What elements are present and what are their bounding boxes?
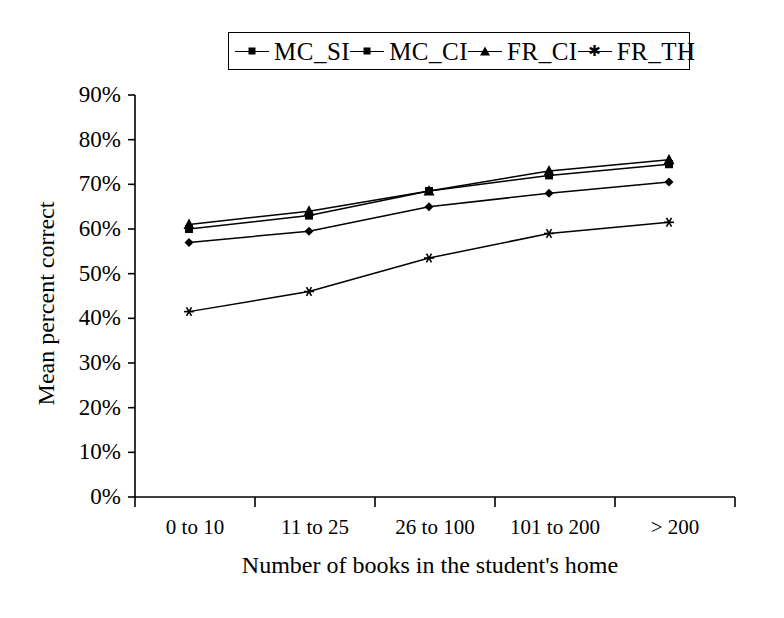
x-tick-label: > 200 <box>651 517 700 538</box>
series-mc-ci <box>185 160 673 233</box>
y-tick-label: 20% <box>51 396 121 419</box>
diamond-marker-icon <box>425 202 434 211</box>
y-tick-label: 60% <box>51 217 121 240</box>
star-marker-icon <box>184 307 194 316</box>
star-marker-icon <box>544 229 554 238</box>
y-tick-label: 90% <box>51 83 121 106</box>
x-tick-label: 101 to 200 <box>510 517 600 538</box>
y-tick-label: 70% <box>51 172 121 195</box>
y-axis-title: Mean percent correct <box>33 174 60 434</box>
star-marker-icon <box>664 218 674 227</box>
y-tick-label: 80% <box>51 128 121 151</box>
star-marker-icon <box>424 254 434 263</box>
x-tick-label: 11 to 25 <box>281 517 349 538</box>
x-tick-label: 0 to 10 <box>166 517 224 538</box>
triangle-marker-icon <box>664 154 675 165</box>
series-fr-ci <box>184 154 675 229</box>
chart-figure: MC_SI MC_CI FR_CI ✱ FR_TH Mean percent c… <box>0 0 784 618</box>
diamond-marker-icon <box>665 178 674 187</box>
x-axis-title: Number of books in the student's home <box>130 552 730 579</box>
series-fr-th <box>184 218 674 316</box>
diamond-marker-icon <box>305 227 314 236</box>
y-tick-label: 0% <box>51 485 121 508</box>
series-line <box>189 164 669 229</box>
star-marker-icon <box>304 287 314 296</box>
diamond-marker-icon <box>185 238 194 247</box>
y-tick-label: 40% <box>51 306 121 329</box>
y-tick-label: 30% <box>51 351 121 374</box>
y-tick-label: 50% <box>51 262 121 285</box>
x-tick-label: 26 to 100 <box>395 517 474 538</box>
y-tick-label: 10% <box>51 440 121 463</box>
diamond-marker-icon <box>545 189 554 198</box>
